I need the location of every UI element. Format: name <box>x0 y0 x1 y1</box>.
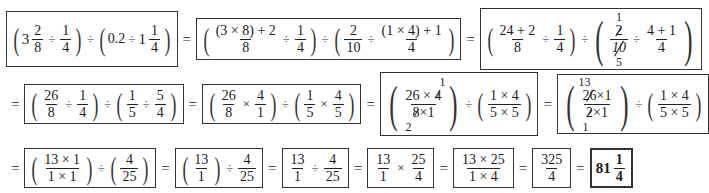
left-paren: ( <box>110 152 116 184</box>
paren-group: ( (3 × 8) + 2 8 ÷ 1 4 ) <box>201 23 319 56</box>
whole-part: 3 <box>22 31 30 48</box>
fraction: 2 10 <box>610 23 628 56</box>
cancelled-fraction: 1 26 × 4 8×1 2 <box>402 76 446 133</box>
cancelled-fraction: 13 26×1 2×1 1 <box>579 76 616 133</box>
divide-operator: ÷ <box>98 160 105 176</box>
numerator: 4 <box>124 152 135 168</box>
denominator: 1 <box>196 168 207 185</box>
equals-sign: = <box>189 96 197 113</box>
divide-operator: ÷ <box>542 31 549 47</box>
line-1: ( 3 2 8 ÷ 1 4 ) ÷ ( 0.2 ÷ 1 1 <box>6 8 702 70</box>
denominator: 8 <box>46 104 57 121</box>
paren-group: ( 1 × 4 5 × 5 ) <box>645 88 703 121</box>
numerator: 2 <box>348 23 359 39</box>
numerator-factor-cancelled: 4 <box>434 88 441 103</box>
denominator: 5 <box>304 104 315 121</box>
numerator: 1 × 4 <box>488 88 521 104</box>
equals-sign: = <box>466 31 474 48</box>
right-paren: ) <box>143 152 149 184</box>
denominator: 8 <box>32 39 43 56</box>
numerator-cancelled: 2 <box>613 23 624 39</box>
numerator: 1 <box>149 23 160 39</box>
cancel-result-bottom: 5 <box>616 56 622 68</box>
numerator: 4 <box>333 88 344 104</box>
fraction: 13 1 <box>374 152 392 185</box>
denominator: 5 × 5 <box>658 104 691 121</box>
cancel-result-bottom: 1 <box>583 121 589 133</box>
denominator: 25 <box>324 168 342 185</box>
denominator-factor-cancelled: 8 <box>413 105 420 120</box>
divide-operator: ÷ <box>322 31 329 47</box>
equals-sign: = <box>519 160 527 177</box>
equals-sign: = <box>268 160 276 177</box>
whole-part: 1 <box>138 31 146 48</box>
paren-group: ( 13 1 ) <box>180 152 223 185</box>
paren-group: ( 3 2 8 ÷ 1 4 ) <box>11 23 84 56</box>
denominator: 5 <box>127 104 138 121</box>
fraction: 2 8 <box>32 23 43 56</box>
denominator-factor: 1 <box>601 105 608 120</box>
denominator: 1 <box>255 104 266 121</box>
mixed-number: 81 1 4 <box>596 152 627 185</box>
mixed-number: 3 2 8 <box>22 23 46 56</box>
divide-operator: ÷ <box>283 31 290 47</box>
right-paren: ) <box>620 79 628 129</box>
left-paren: ( <box>182 152 188 184</box>
fraction: 5 4 <box>155 88 166 121</box>
numerator: 13 <box>374 152 392 168</box>
step-4-box: ( 26 8 ÷ 1 4 ) ÷ ( 1 5 ÷ 5 4 ) <box>24 84 183 124</box>
numerator: 26 <box>220 88 238 104</box>
step-10-box: 13 1 ÷ 4 25 <box>282 148 349 188</box>
paren-group: ( 0.2 ÷ 1 1 4 ) <box>97 23 172 56</box>
denominator: 1 <box>292 168 303 185</box>
equals-sign: = <box>354 160 362 177</box>
numerator: 25 <box>409 152 427 168</box>
divide-operator: ÷ <box>282 96 289 112</box>
equals-sign: = <box>183 31 191 48</box>
fraction: 26×1 2×1 <box>581 88 614 121</box>
equals-sign: = <box>543 96 551 113</box>
denominator: 4 <box>554 39 565 56</box>
left-paren: ( <box>389 79 397 129</box>
equals-sign: = <box>439 160 447 177</box>
right-paren: ) <box>695 88 701 120</box>
right-paren: ) <box>170 88 176 120</box>
step-12-box: 13 × 25 1 × 4 <box>453 148 514 188</box>
whole-part: 81 <box>596 160 611 177</box>
final-answer-box: 81 1 4 <box>590 148 633 188</box>
paren-group: ( 1 5 × 4 5 ) <box>292 88 357 121</box>
equals-sign: = <box>11 96 19 113</box>
denominator-factor-cancelled: 2 <box>586 105 593 120</box>
fraction: 1 4 <box>554 23 565 56</box>
step-9-box: ( 13 1 ) ÷ 4 25 <box>175 148 263 188</box>
right-paren: ) <box>684 14 692 64</box>
mixed-number: 1 1 4 <box>138 23 162 56</box>
paren-group: ( 1 26 × 4 8×1 2 ) <box>385 76 462 133</box>
right-paren: ) <box>93 88 99 120</box>
denominator-cancelled: 10 <box>610 39 628 56</box>
left-paren: ( <box>32 88 38 120</box>
fraction: 24 + 2 8 <box>497 23 537 56</box>
numerator: 26×1 <box>581 88 614 104</box>
denominator: 4 <box>406 39 417 56</box>
right-paren: ) <box>448 23 454 55</box>
numerator: 26 × 4 <box>404 88 444 104</box>
paren-group: ( 4 25 ) <box>108 152 151 185</box>
denominator: 1 × 4 <box>467 168 500 185</box>
fraction: 1 4 <box>60 23 71 56</box>
divide-operator: ÷ <box>312 160 319 176</box>
numerator: 1 <box>614 152 625 168</box>
step-2-box: ( (3 × 8) + 2 8 ÷ 1 4 ) ÷ ( 2 10 ÷ (1 × … <box>196 18 461 60</box>
right-paren: ) <box>76 23 82 55</box>
step-1-box: ( 3 2 8 ÷ 1 4 ) ÷ ( 0.2 ÷ 1 1 <box>6 11 178 67</box>
left-paren: ( <box>13 23 19 55</box>
divide-operator: ÷ <box>87 31 94 47</box>
fraction: 1 5 <box>304 88 315 121</box>
denominator: 4 <box>656 39 667 56</box>
cancel-result-top: 1 <box>439 76 445 88</box>
cancel-result-bottom: 2 <box>406 121 412 133</box>
fraction: 25 4 <box>409 152 427 185</box>
numerator: 1 <box>554 23 565 39</box>
fraction: 325 4 <box>539 152 564 185</box>
divide-operator: ÷ <box>465 96 472 112</box>
